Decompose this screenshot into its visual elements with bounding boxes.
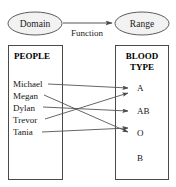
range-node: Range	[115, 12, 169, 35]
function-arrow: Function	[63, 23, 112, 38]
function-arrow-label: Function	[71, 28, 104, 38]
domain-box-title: PEOPLE	[14, 51, 50, 61]
range-set-box: BLOOD TYPE A AB O B	[116, 46, 169, 180]
function-diagram-canvas: Domain Range Function PEOPLE Michael Meg…	[0, 0, 176, 187]
range-item-ab: AB	[137, 106, 150, 116]
domain-item-megan: Megan	[13, 91, 38, 101]
range-node-label: Range	[130, 19, 154, 29]
diagram-svg: Domain Range Function PEOPLE Michael Meg…	[0, 0, 176, 187]
domain-node: Domain	[8, 12, 62, 35]
domain-item-tania: Tania	[13, 127, 33, 137]
range-item-a: A	[137, 83, 144, 93]
domain-item-trevor: Trevor	[13, 115, 37, 125]
domain-node-label: Domain	[20, 19, 51, 29]
domain-item-dylan: Dylan	[13, 103, 35, 113]
range-item-b: B	[137, 153, 143, 163]
range-box-title-line2: TYPE	[130, 62, 154, 72]
range-item-o: O	[137, 128, 144, 138]
range-box-title-line1: BLOOD	[126, 51, 159, 61]
domain-set-box: PEOPLE Michael Megan Dylan Trevor Tania	[9, 46, 63, 180]
domain-item-michael: Michael	[13, 79, 43, 89]
